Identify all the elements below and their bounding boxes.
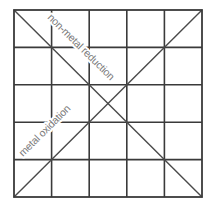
metal-oxidation-label: metal oxidation bbox=[16, 102, 73, 158]
redox-grid-diagram: non-metal reduction metal oxidation bbox=[0, 0, 211, 207]
diagonals bbox=[14, 10, 202, 197]
